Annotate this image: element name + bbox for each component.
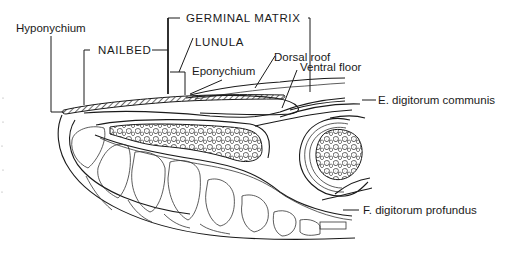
- label-hyponychium: Hyponychium: [16, 22, 86, 34]
- nail-anatomy-diagram: Hyponychium NAILBED GERMINAL MATRIX LUNU…: [0, 0, 514, 256]
- edge-artifacts: [1, 97, 3, 192]
- label-f-digitorum-profundus: F. digitorum profundus: [363, 204, 477, 216]
- label-germinal-matrix: GERMINAL MATRIX: [186, 12, 300, 24]
- label-nailbed: NAILBED: [98, 44, 151, 56]
- middle-phalanx-head: [300, 119, 372, 200]
- label-e-digitorum-communis: E. digitorum communis: [378, 94, 495, 106]
- label-ventral-floor: Ventral floor: [300, 61, 362, 73]
- nail-plate: [62, 95, 285, 114]
- distal-phalanx: [95, 120, 352, 220]
- label-lunula: LUNULA: [195, 36, 244, 48]
- labels: Hyponychium NAILBED GERMINAL MATRIX LUNU…: [16, 12, 495, 216]
- label-eponychium: Eponychium: [192, 65, 255, 77]
